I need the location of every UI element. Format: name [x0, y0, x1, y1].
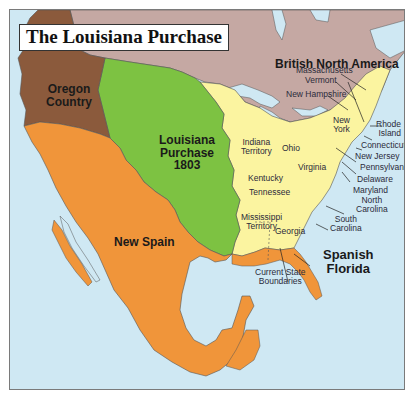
label-new-york-line2: York	[333, 125, 350, 134]
label-virginia: Virginia	[298, 163, 326, 172]
label-north-carolina: North Carolina	[356, 196, 388, 214]
label-delaware: Delaware	[357, 175, 393, 184]
label-south-carolina: South Carolina	[330, 215, 362, 233]
label-oregon-line1: Oregon	[46, 83, 92, 96]
label-louisiana-year: 1803	[159, 159, 215, 172]
label-nc-line2: Carolina	[356, 205, 388, 214]
label-florida-line2: Florida	[323, 262, 374, 276]
label-ohio: Ohio	[282, 144, 300, 153]
label-boundaries-line2: Boundaries	[255, 277, 306, 286]
label-rhode-island-line2: Island	[376, 129, 401, 138]
label-louisiana-purchase: Louisiana Purchase 1803	[159, 134, 215, 172]
label-louisiana-line1: Louisiana	[159, 134, 215, 147]
label-new-spain: New Spain	[114, 236, 175, 249]
label-mississippi-line2: Territory	[241, 222, 282, 231]
label-indiana-territory: Indiana Territory	[241, 138, 272, 156]
label-spanish-florida: Spanish Florida	[323, 248, 374, 275]
label-rhode-island: Rhode Island	[376, 120, 401, 138]
label-maryland: Maryland	[353, 186, 388, 195]
label-kentucky: Kentucky	[248, 174, 283, 183]
map-title-box: The Louisiana Purchase	[19, 24, 229, 51]
label-connecticut: Connecticut	[361, 141, 405, 150]
label-pennsylvania: Pennsylvania	[360, 163, 405, 172]
label-mississippi-territory: Mississippi Territory	[241, 213, 282, 231]
map-frame: British North America Oregon Country Lou…	[9, 9, 405, 390]
label-florida-line1: Spanish	[323, 248, 374, 262]
label-current-state-boundaries: Current State Boundaries	[255, 268, 306, 286]
label-sc-line2: Carolina	[330, 224, 362, 233]
label-vermont: Vermont	[305, 76, 337, 85]
label-new-jersey: New Jersey	[355, 152, 399, 161]
label-oregon-country: Oregon Country	[46, 83, 92, 108]
label-new-hampshire: New Hampshire	[286, 90, 346, 99]
label-tennessee: Tennessee	[249, 188, 290, 197]
label-indiana-line2: Territory	[241, 147, 272, 156]
label-oregon-line2: Country	[46, 96, 92, 109]
label-massachusetts: Massachusetts	[296, 66, 353, 75]
label-new-york: New York	[333, 116, 350, 134]
map-title: The Louisiana Purchase	[26, 26, 222, 47]
